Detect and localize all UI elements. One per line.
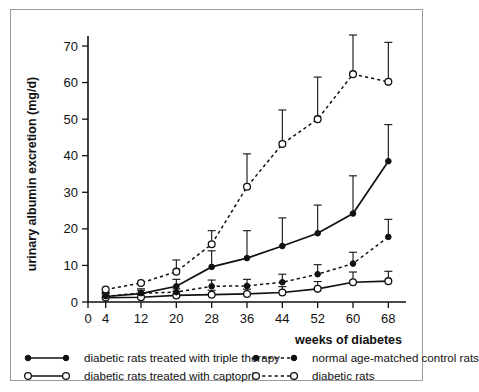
error-bar bbox=[349, 35, 357, 74]
error-bar bbox=[384, 42, 392, 81]
y-tick-label: 60 bbox=[64, 75, 78, 90]
data-point bbox=[173, 268, 180, 275]
data-point bbox=[350, 261, 356, 267]
y-tick-label: 70 bbox=[64, 39, 78, 54]
x-tick-label: 36 bbox=[240, 311, 254, 326]
y-axis-title: urinary albumin excretion (mg/d) bbox=[25, 77, 39, 271]
data-point bbox=[244, 255, 250, 261]
error-bar bbox=[243, 154, 251, 187]
x-axis-title: weeks of diabetes bbox=[294, 333, 402, 347]
data-point bbox=[138, 290, 144, 296]
data-point bbox=[315, 271, 321, 277]
data-point bbox=[244, 291, 251, 298]
x-tick-label: 4 bbox=[102, 311, 109, 326]
data-point bbox=[385, 278, 392, 285]
axis-labels: urinary albumin excretion (mg/d)weeks of… bbox=[25, 77, 402, 347]
data-point bbox=[280, 243, 286, 249]
legend-swatch bbox=[22, 349, 78, 366]
data-point bbox=[102, 286, 109, 293]
data-point bbox=[386, 234, 392, 240]
legend-label: diabetic rats treated with captopril bbox=[84, 367, 257, 384]
x-tick-label: 68 bbox=[381, 311, 395, 326]
legend-swatch bbox=[250, 367, 306, 384]
x-tick-label: 28 bbox=[204, 311, 218, 326]
x-tick-label: 44 bbox=[275, 311, 289, 326]
x-tick-label: 0 bbox=[84, 311, 91, 326]
data-point bbox=[314, 116, 321, 123]
data-point bbox=[279, 141, 286, 148]
data-point bbox=[103, 293, 109, 299]
data-point bbox=[385, 78, 392, 85]
data-point bbox=[174, 289, 180, 295]
data-point bbox=[280, 279, 286, 285]
error-bar bbox=[278, 218, 286, 246]
x-tick-label: 52 bbox=[310, 311, 324, 326]
error-bar bbox=[278, 110, 286, 144]
x-tick-label: 12 bbox=[134, 311, 148, 326]
y-tick-label: 0 bbox=[71, 295, 78, 310]
data-point bbox=[208, 241, 215, 248]
legend-label: diabetic rats bbox=[312, 367, 375, 384]
legend-swatch bbox=[250, 349, 306, 366]
y-tick-label: 30 bbox=[64, 185, 78, 200]
chart-legend: diabetic rats treated with triple therap… bbox=[22, 349, 422, 387]
data-point bbox=[209, 264, 215, 270]
x-tick-label: 60 bbox=[346, 311, 360, 326]
data-point bbox=[279, 289, 286, 296]
error-bar bbox=[384, 125, 392, 162]
data-point bbox=[315, 230, 321, 236]
data-point bbox=[314, 285, 321, 292]
error-bar bbox=[314, 205, 322, 233]
data-point bbox=[138, 280, 145, 287]
error-bar bbox=[243, 231, 251, 258]
data-point bbox=[244, 283, 250, 289]
data-point bbox=[350, 279, 357, 286]
y-tick-label: 40 bbox=[64, 148, 78, 163]
y-tick-label: 50 bbox=[64, 112, 78, 127]
legend-swatch bbox=[22, 367, 78, 384]
data-series-layer bbox=[102, 35, 393, 301]
x-tick-label: 20 bbox=[169, 311, 183, 326]
data-point bbox=[244, 183, 251, 190]
error-bar bbox=[314, 77, 322, 119]
data-point bbox=[350, 71, 357, 78]
data-point bbox=[174, 283, 180, 289]
y-tick-label: 20 bbox=[64, 221, 78, 236]
series-0 bbox=[102, 125, 393, 300]
y-tick-label: 10 bbox=[64, 258, 78, 273]
legend-label: normal age-matched control rats bbox=[312, 349, 479, 366]
data-point bbox=[209, 283, 215, 289]
data-point bbox=[350, 211, 356, 217]
data-point bbox=[208, 291, 215, 298]
data-point bbox=[386, 158, 392, 164]
